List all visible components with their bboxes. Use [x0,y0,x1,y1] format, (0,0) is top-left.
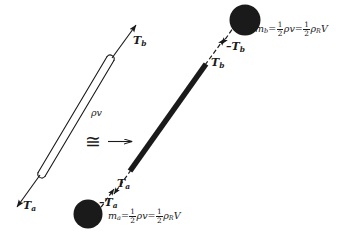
solid-rod [130,64,206,171]
left-tension-b-label: Tb [133,35,146,48]
mass-b-formula: mb=12ρv=12ρRV [255,21,328,37]
mass-a-formula: ma=12ρv=12ρRV [108,208,181,224]
rod-tension-a-label: Ta [117,178,130,191]
left-tension-a-label: Ta [23,200,36,213]
distributed-mass-label: ρv [91,108,102,118]
congruence-symbol: ≅ [85,132,101,151]
mass-b-reaction-label: –Tb [226,41,245,54]
hollow-rod-outline [38,55,114,178]
rod-tension-b-label: Tb [211,57,224,70]
physics-diagram-canvas: Tb Ta ρv ≅ Tb Ta –Tb –Ta mb=12ρv=12ρRV m… [0,0,343,241]
